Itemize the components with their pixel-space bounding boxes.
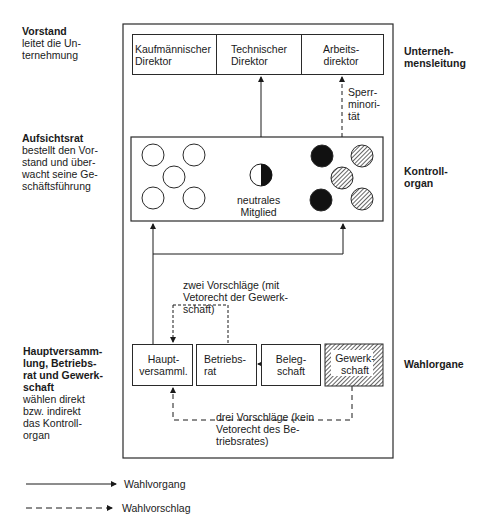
aufsichtsrat-desc: bestellt den Vor- stand und über- wacht … bbox=[22, 144, 98, 192]
neutral-member-label: neutrales Mitglied bbox=[237, 194, 280, 218]
aufsichtsrat-title: Aufsichtsrat bbox=[22, 132, 98, 144]
legend-wahlvorschlag: Wahlvorschlag bbox=[122, 502, 190, 514]
drei-vorschlaege-note: drei Vorschläge (kein Vetorecht des Be- … bbox=[216, 411, 314, 447]
kontrollorgan-label: Kontroll- organ bbox=[404, 165, 448, 189]
kaufmaennischer-direktor-box: Kaufmännischer Direktor bbox=[132, 34, 217, 75]
neutral-member-icon bbox=[250, 164, 272, 186]
vorstand-label: Vorstand leitet die Un- ternehmung bbox=[22, 25, 81, 61]
hauptversammlung-box: Haupt- versamml. bbox=[132, 344, 193, 386]
zwei-vorschlaege-note: zwei Vorschläge (mit Vetorecht der Gewer… bbox=[183, 279, 288, 315]
vorstand-desc: leitet die Un- ternehmung bbox=[22, 37, 81, 61]
belegschaft-label: Beleg- schaft bbox=[262, 353, 320, 377]
wahlorgane-label: Wahlorgane bbox=[404, 358, 464, 370]
technischer-direktor-label: Technischer Direktor bbox=[231, 43, 287, 67]
legend-wahlvorgang: Wahlvorgang bbox=[124, 478, 185, 490]
gewerkschaft-box: Gewerk- schaft bbox=[325, 344, 383, 386]
wahl-desc: wählen direkt bzw. indirekt das Kontroll… bbox=[23, 393, 103, 441]
wahl-title: Hauptversamm- lung, Betriebs- rat und Ge… bbox=[23, 345, 103, 393]
arbeitsdirektor-label: Arbeits- direktor bbox=[323, 43, 359, 67]
kaufmaennischer-direktor-label: Kaufmännischer Direktor bbox=[135, 43, 211, 67]
hauptversammlung-label: Haupt- versamml. bbox=[137, 353, 190, 377]
sperrminoritaet-label: Sperr- minori- tät bbox=[348, 86, 380, 122]
unternehmensleitung-label: Unterneh- mensleitung bbox=[404, 45, 466, 69]
betriebsrat-box: Betriebs- rat bbox=[196, 344, 257, 386]
wahl-label: Hauptversamm- lung, Betriebs- rat und Ge… bbox=[23, 345, 103, 441]
betriebsrat-label: Betriebs- rat bbox=[204, 353, 246, 377]
aufsichtsrat-label: Aufsichtsrat bestellt den Vor- stand und… bbox=[22, 132, 98, 192]
technischer-direktor-box: Technischer Direktor bbox=[216, 34, 302, 75]
belegschaft-box: Beleg- schaft bbox=[261, 344, 321, 386]
vorstand-title: Vorstand bbox=[22, 25, 81, 37]
gewerkschaft-label: Gewerk- schaft bbox=[333, 352, 377, 376]
arbeitsdirektor-box: Arbeits- direktor bbox=[301, 34, 384, 75]
